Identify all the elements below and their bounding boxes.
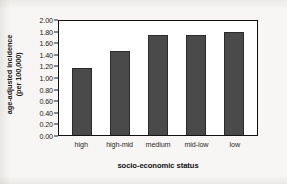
bar	[72, 68, 92, 135]
y-axis-tick-label: 0.40	[26, 108, 53, 117]
y-axis-title-line1: age-adjusted incidence	[6, 34, 15, 114]
x-axis-tick-label: medium	[139, 140, 177, 152]
y-axis-tick-label: 0.20	[26, 120, 53, 129]
y-axis-tick-label: 1.60	[26, 39, 53, 48]
x-axis-tick-label: mid-low	[177, 140, 215, 152]
y-axis-tick-label: 1.40	[26, 50, 53, 59]
x-axis-title: socio-economic status	[58, 161, 258, 170]
bar-series	[59, 21, 257, 135]
y-axis-tick-label: 2.00	[26, 16, 53, 25]
bar-chart-figure: age-adjusted incidence (per 100,000) 0.0…	[0, 0, 287, 184]
x-axis-tick-label: low	[216, 140, 254, 152]
bar	[148, 35, 168, 135]
bar	[110, 51, 130, 135]
bar-slot	[63, 21, 101, 135]
bar-slot	[139, 21, 177, 135]
bar	[224, 32, 244, 135]
bar-slot	[101, 21, 139, 135]
bar-slot	[177, 21, 215, 135]
y-axis-tick-label: 0.60	[26, 97, 53, 106]
y-axis-tick-label: 1.80	[26, 27, 53, 36]
y-axis-tick-label: 1.00	[26, 74, 53, 83]
y-axis-tick-label: 0.00	[26, 132, 53, 141]
y-axis-title-line2: (per 100,000)	[15, 34, 24, 114]
y-axis-tick-label: 0.80	[26, 85, 53, 94]
x-axis-tick-label: high-mid	[100, 140, 138, 152]
bar-slot	[215, 21, 253, 135]
y-axis-tick-label: 1.20	[26, 62, 53, 71]
x-axis-tick-labels: highhigh-midmediummid-lowlow	[58, 140, 258, 152]
plot-area	[58, 20, 258, 136]
y-axis-tick-labels: 0.000.200.400.600.801.001.201.401.601.80…	[26, 20, 53, 136]
bar	[186, 35, 206, 135]
x-axis-tick-label: high	[62, 140, 100, 152]
